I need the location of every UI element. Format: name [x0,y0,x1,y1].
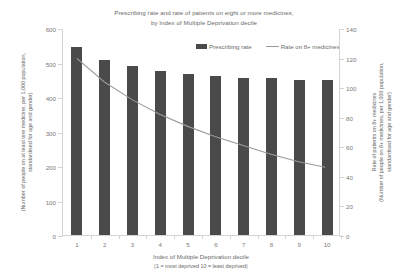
y-axis-right-title: Rate of patients on 8+ medicines (Number… [368,29,398,236]
y-axis-left-tick-label: 500 [46,60,56,67]
y-axis-right-tick [339,206,344,207]
chart-title-line-2: by Index of Multiple Deprivation decile [84,18,324,28]
x-axis-tick [146,235,147,239]
y-axis-right-tick [339,147,344,148]
x-axis-tick [341,235,342,239]
y-axis-left-tick-label: 600 [46,26,56,33]
x-axis-title-main: Index of Multiple Deprivation decile [153,253,249,260]
y-axis-right-tick [339,29,344,30]
y-axis-right-tick-label: 120 [346,55,356,62]
y-axis-left-tick-label: 100 [46,198,56,205]
y-axis-right-tick-label: 40 [346,173,353,180]
plot-area: 0100200300400500600 020406080100120140 1… [62,29,340,236]
x-axis-tick-label-9: 9 [298,241,301,248]
x-axis-tick-label-1: 1 [75,241,78,248]
y-axis-left-tick [58,236,63,237]
x-axis-tick-label-3: 3 [131,241,134,248]
x-axis-tick [91,235,92,239]
y-axis-right-tick [339,177,344,178]
x-axis-tick-label-6: 6 [214,241,217,248]
x-axis-tick-label-10: 10 [324,241,331,248]
y-axis-left-tick-label: 400 [46,95,56,102]
y-axis-right-tick [339,88,344,89]
line-path [77,58,325,167]
y-axis-right-tick-label: 60 [346,144,353,151]
y-axis-left-title-sub-1: (Number of people on at least one medici… [20,53,27,211]
y-axis-right-title-sub-2: standardised for age and gender) [387,63,394,202]
x-axis-tick [285,235,286,239]
x-axis-tick-label-7: 7 [242,241,245,248]
x-axis-tick-label-8: 8 [270,241,273,248]
x-axis-tick [174,235,175,239]
line-series [63,29,339,235]
y-axis-left-tick-label: 200 [46,164,56,171]
y-axis-left-title: (Number of people on at least one medici… [16,29,38,236]
x-axis-title-sub: (1 = most deprived 10 = least deprived) [62,262,340,271]
x-axis-title: Index of Multiple Deprivation decile (1 … [62,253,340,270]
y-axis-right-tick-label: 80 [346,114,353,121]
x-axis-tick [119,235,120,239]
y-axis-left-tick-label: 300 [46,129,56,136]
chart-title: Prescribing rate and rate of patients on… [84,8,324,27]
x-axis-tick [258,235,259,239]
y-axis-right-tick [339,59,344,60]
y-axis-left-title-sub-2: standardised for age and gender) [27,53,34,211]
y-axis-right-tick-label: 20 [346,203,353,210]
x-axis-tick-label-2: 2 [103,241,106,248]
y-axis-right-tick [339,118,344,119]
x-axis-tick-label-5: 5 [186,241,189,248]
x-axis-tick [202,235,203,239]
x-axis-tick [313,235,314,239]
y-axis-right-tick-label: 100 [346,85,356,92]
y-axis-right-tick-label: 0 [346,233,349,240]
x-axis-tick-label-4: 4 [159,241,162,248]
y-axis-right-tick-label: 140 [346,26,356,33]
chart-title-line-1: Prescribing rate and rate of patients on… [84,8,324,18]
x-axis-tick [230,235,231,239]
chart-container: Prescribing rate and rate of patients on… [0,0,408,278]
y-axis-left-tick-label: 0 [53,233,56,240]
